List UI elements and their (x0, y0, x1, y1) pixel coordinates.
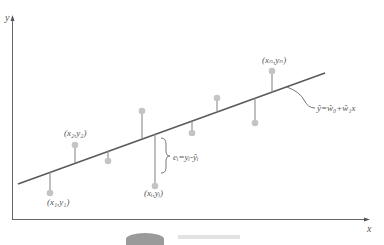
point-2 (72, 142, 79, 149)
point-7 (214, 95, 221, 102)
regression-equation: ŷ=ŵ₀+ŵ₁x (316, 103, 355, 113)
point-label-2: (x₂,y₂) (64, 128, 87, 138)
point-5 (139, 108, 146, 115)
cropped-shape (126, 233, 164, 245)
point-label-i: (xᵢ,yᵢ) (144, 188, 163, 198)
point-label-1: (x₁,y₁) (47, 197, 70, 207)
point-n (269, 68, 276, 75)
cropped-footer (0, 233, 384, 243)
x-axis-arrow-icon (364, 218, 370, 222)
residual-label: eᵢ=yᵢ-ŷᵢ (173, 152, 199, 162)
point-8 (252, 120, 259, 127)
point-3 (105, 158, 112, 165)
point-6 (189, 130, 196, 137)
cropped-text (178, 235, 240, 239)
y-axis-arrow-icon (11, 15, 15, 21)
residual-brace-icon (161, 138, 170, 173)
equation-callout-curve (287, 87, 315, 108)
point-label-n: (xₙ,yₙ) (262, 55, 286, 65)
y-axis-label: y (4, 12, 10, 23)
point-1 (47, 190, 54, 197)
